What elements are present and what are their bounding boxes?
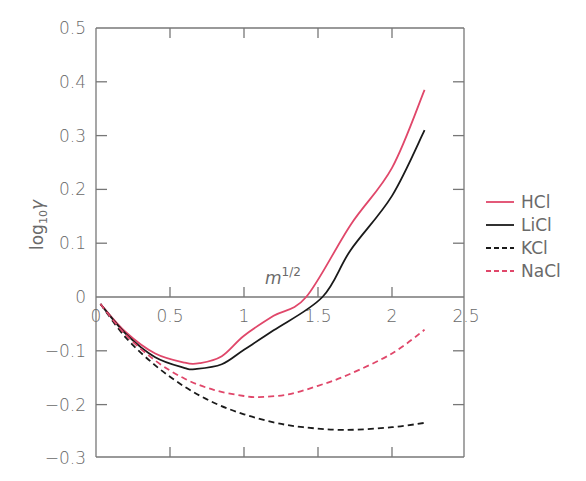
legend: HCl LiCl KCl NaCl (486, 192, 561, 281)
chart: 0.50.40.30.20.10−0.1−0.2−0.3 00.511.522.… (0, 0, 586, 481)
x-axis-title: m1/2 (265, 265, 301, 288)
y-tick-label: 0 (75, 287, 86, 307)
y-tick-label: 0.5 (59, 18, 86, 38)
legend-item-licl: LiCl (486, 215, 552, 235)
axis-ticks (96, 28, 464, 457)
y-tick-label: −0.3 (45, 448, 86, 468)
y-tick-labels: 0.50.40.30.20.10−0.1−0.2−0.3 (45, 18, 86, 468)
y-tick-label: 0.1 (59, 233, 86, 253)
y-tick-label: 0.3 (59, 126, 86, 146)
x-tick-label: 2 (387, 306, 398, 326)
series-hcl (100, 90, 424, 364)
svg-text:LiCl: LiCl (521, 215, 552, 235)
y-tick-label: 0.2 (59, 179, 86, 199)
svg-text:HCl: HCl (521, 192, 550, 212)
series-lines (100, 90, 424, 430)
x-tick-label: 0.5 (156, 306, 183, 326)
svg-text:NaCl: NaCl (521, 261, 561, 281)
x-tick-label: 0 (91, 306, 102, 326)
legend-item-kcl: KCl (486, 238, 548, 258)
legend-item-nacl: NaCl (486, 261, 561, 281)
y-axis-title: log10γ (27, 199, 50, 250)
legend-item-hcl: HCl (486, 192, 550, 212)
y-tick-label: 0.4 (59, 72, 86, 92)
y-tick-label: −0.2 (45, 395, 86, 415)
plot-frame (96, 28, 464, 457)
y-tick-label: −0.1 (45, 341, 86, 361)
svg-text:KCl: KCl (521, 238, 548, 258)
x-tick-label: 2.5 (452, 306, 479, 326)
series-licl (100, 130, 424, 369)
x-tick-label: 1 (239, 306, 250, 326)
